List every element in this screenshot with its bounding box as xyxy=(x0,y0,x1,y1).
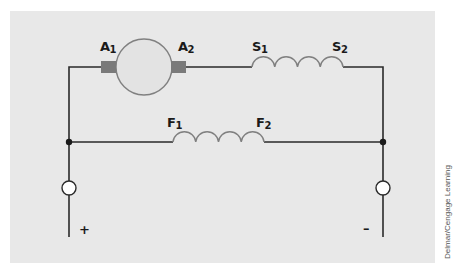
junction-node-right xyxy=(380,139,386,145)
label-a1: A1 xyxy=(100,40,116,55)
label-a2: A2 xyxy=(178,40,194,55)
label-f1: F1 xyxy=(167,116,182,131)
wire-left xyxy=(69,67,101,181)
label-s2: S2 xyxy=(332,40,347,55)
positive-sign: + xyxy=(79,223,90,236)
terminal-positive xyxy=(62,181,76,195)
armature-circle xyxy=(116,39,172,95)
terminal-negative xyxy=(376,181,390,195)
wire-right xyxy=(343,67,383,181)
brush-a1 xyxy=(101,61,116,73)
circuit-diagram xyxy=(0,0,460,277)
shunt-field-coil xyxy=(173,132,264,142)
negative-sign: – xyxy=(363,222,370,235)
label-f2: F2 xyxy=(256,116,271,131)
series-field-coil xyxy=(252,57,343,67)
label-s1: S1 xyxy=(252,40,267,55)
brush-a2 xyxy=(171,61,186,73)
credit-text: Delmar/Cengage Learning xyxy=(443,165,452,259)
wires xyxy=(69,67,383,237)
junction-node-left xyxy=(66,139,72,145)
